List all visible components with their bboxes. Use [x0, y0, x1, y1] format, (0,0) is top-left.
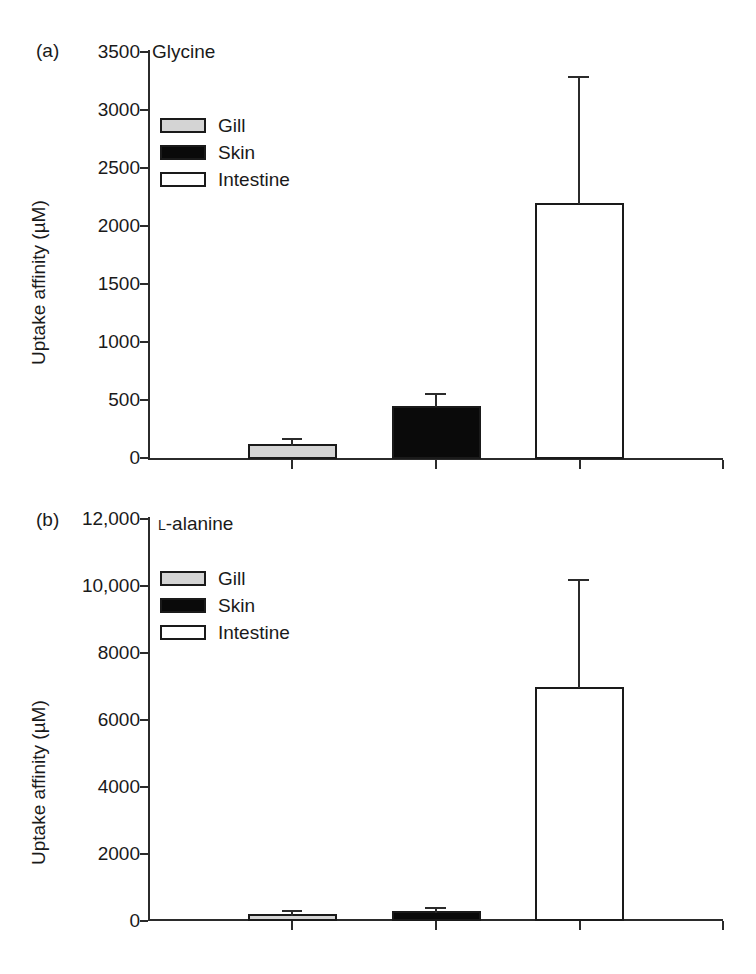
error-bar-cap-intestine: [568, 76, 589, 78]
y-tick-label: 1000: [58, 331, 140, 353]
legend-label-skin: Skin: [218, 596, 255, 615]
legend-swatch-skin-icon: [160, 598, 206, 613]
y-tick-label: 0: [58, 447, 140, 469]
y-tick-label: 6000: [42, 709, 140, 731]
y-tick-label: 0: [42, 910, 140, 932]
x-axis-tick: [579, 460, 581, 469]
y-tick-label: 2000: [42, 843, 140, 865]
y-axis-tick: [140, 518, 148, 520]
y-axis-tick: [140, 167, 148, 169]
y-axis-tick: [140, 853, 148, 855]
x-axis-tick: [579, 921, 581, 930]
y-tick-label: 4000: [42, 776, 140, 798]
legend-panel-a: Gill Skin Intestine: [160, 112, 290, 193]
legend-item-intestine: Intestine: [160, 619, 290, 646]
legend-item-intestine: Intestine: [160, 166, 290, 193]
y-tick-label: 2500: [58, 157, 140, 179]
legend-swatch-intestine-icon: [160, 172, 206, 187]
y-axis-tick: [140, 457, 148, 459]
legend-label-skin: Skin: [218, 143, 255, 162]
x-axis-tick: [435, 460, 437, 469]
y-axis-tick: [140, 283, 148, 285]
panel-b-title: L-alanine: [158, 513, 233, 535]
legend-label-intestine: Intestine: [218, 623, 290, 642]
y-tick-label: 3500: [58, 41, 140, 63]
error-bar-cap-intestine: [568, 579, 589, 581]
x-axis-tick: [291, 460, 293, 469]
y-tick-label: 2000: [58, 215, 140, 237]
panel-a-y-axis-label: Uptake affinity (µM): [28, 200, 50, 365]
y-axis-tick: [140, 341, 148, 343]
panel-a: (a) Glycine Uptake affinity (µM) 3500 30…: [0, 0, 756, 487]
error-bar-cap-skin: [425, 393, 446, 395]
y-axis-line: [148, 50, 150, 460]
legend-swatch-gill-icon: [160, 571, 206, 586]
x-axis-tick: [291, 921, 293, 930]
panel-a-title: Glycine: [152, 41, 215, 63]
panel-b: (b) L-alanine Uptake affinity (µM) 12,00…: [0, 487, 756, 974]
y-tick-label: 1500: [58, 273, 140, 295]
y-tick-label: 3000: [58, 99, 140, 121]
panel-b-title-main: -alanine: [166, 513, 234, 534]
bar-intestine: [535, 687, 624, 921]
legend-item-gill: Gill: [160, 112, 290, 139]
bar-skin: [392, 406, 481, 459]
legend-label-gill: Gill: [218, 116, 245, 135]
legend-label-gill: Gill: [218, 569, 245, 588]
legend-item-skin: Skin: [160, 592, 290, 619]
legend-panel-b: Gill Skin Intestine: [160, 565, 290, 646]
y-axis-tick: [140, 920, 148, 922]
y-axis-tick: [140, 585, 148, 587]
error-bar-stem-skin: [435, 393, 437, 407]
y-axis-tick: [140, 51, 148, 53]
bar-gill: [248, 444, 337, 459]
legend-item-skin: Skin: [160, 139, 290, 166]
error-bar-stem-intestine: [578, 76, 580, 204]
legend-swatch-intestine-icon: [160, 625, 206, 640]
x-axis-tick: [722, 921, 724, 930]
bar-intestine: [535, 203, 624, 459]
y-axis-tick: [140, 652, 148, 654]
legend-swatch-skin-icon: [160, 145, 206, 160]
x-axis-tick: [435, 921, 437, 930]
error-bar-cap-gill: [282, 438, 302, 440]
y-axis-tick: [140, 109, 148, 111]
error-bar-stem-intestine: [578, 579, 580, 688]
error-bar-cap-gill: [282, 910, 302, 912]
y-axis-tick: [140, 399, 148, 401]
y-axis-line: [148, 517, 150, 921]
figure-root: (a) Glycine Uptake affinity (µM) 3500 30…: [0, 0, 756, 974]
y-tick-label: 10,000: [42, 575, 140, 597]
y-axis-tick: [140, 786, 148, 788]
legend-label-intestine: Intestine: [218, 170, 290, 189]
x-axis-tick: [722, 460, 724, 469]
y-tick-label: 500: [58, 389, 140, 411]
legend-swatch-gill-icon: [160, 118, 206, 133]
legend-item-gill: Gill: [160, 565, 290, 592]
y-tick-label: 12,000: [42, 508, 140, 530]
error-bar-cap-skin: [425, 907, 446, 909]
y-tick-label: 8000: [42, 642, 140, 664]
panel-a-letter: (a): [36, 40, 59, 62]
y-axis-tick: [140, 225, 148, 227]
panel-b-title-prefix: L: [158, 517, 166, 533]
y-axis-tick: [140, 719, 148, 721]
